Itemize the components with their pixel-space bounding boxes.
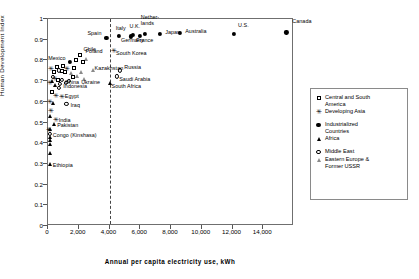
legend-label: Developing Asia [325,108,365,115]
data-point [48,142,52,146]
x-tick-label: 2,000 [70,228,85,235]
plot-area: ✳✳✳✳✳✳✳✳✳✳✳ CanadaU.S.AustraliaJapanNeth… [47,18,293,225]
legend-marker-icon [315,135,322,142]
data-point [52,70,56,74]
legend-item[interactable]: ✳Developing Asia [315,108,403,115]
data-point [284,30,288,34]
point-label: Congo (Kinshasa) [53,132,97,138]
point-label: Canada [292,18,311,24]
legend-label: Industrialized Countries [325,121,358,134]
data-point [56,78,60,82]
legend-marker-icon [315,156,322,163]
x-tick-label: 6,000 [132,228,147,235]
data-point [69,71,73,75]
y-tick-label: 0.7 [17,77,43,84]
point-label: Russia [124,64,141,70]
x-axis-label: Annual per capita electricity use, kWh [47,258,293,265]
legend-label: Central and South America [325,94,370,107]
x-tick-label: 12,000 [222,228,241,235]
legend-item[interactable]: Central and South America [315,94,403,107]
point-label: Japan [165,29,180,35]
x-tick-mark [201,225,202,229]
legend-item[interactable]: Eastern Europe & Former USSR [315,156,403,169]
data-point [68,60,72,64]
data-point [52,122,56,126]
data-point [48,162,52,166]
y-tick-label: 0.6 [17,97,43,104]
y-tick-label: 1 [17,15,43,22]
data-point [61,64,65,68]
data-point [78,53,82,57]
data-point [232,32,236,36]
data-point [104,36,108,40]
point-label: Iraq [70,102,80,108]
x-tick-mark [47,225,48,229]
x-tick-mark [78,225,79,229]
x-tick-label: 10,000 [191,228,210,235]
data-point [48,151,52,155]
point-label: Kazakhstan [95,65,124,71]
legend-marker-icon [315,94,322,101]
data-point [57,86,61,90]
x-tick-label: 0 [45,228,48,235]
x-tick-mark [170,225,171,229]
legend-marker-icon [315,148,322,155]
point-label: South Africa [112,83,142,89]
data-point: ✳ [48,109,54,113]
chart-container: Human Development Index Annual per capit… [0,0,419,279]
point-label: Ethiopia [53,162,73,168]
legend-label: Middle East [325,148,354,155]
x-tick-mark [109,225,110,229]
point-label: Spain [87,30,101,36]
data-point [74,58,78,62]
data-point [84,57,88,61]
data-point [72,66,76,70]
y-tick-label: 0.4 [17,139,43,146]
point-label: Pakistan [57,122,78,128]
point-label: Germany [121,37,144,43]
point-label: Poland [85,48,102,54]
point-label: Mexico [48,55,65,61]
point-label: U.K. [130,23,141,29]
point-label: Egypt [65,93,79,99]
y-tick-label: 0 [17,222,43,229]
y-tick-label: 0.8 [17,56,43,63]
x-tick-mark [262,225,263,229]
x-tick-label: 4,000 [101,228,116,235]
legend: Central and South America✳Developing Asi… [310,88,408,200]
data-point [64,102,68,106]
x-tick-label: 8,000 [162,228,177,235]
y-tick-label: 0.2 [17,180,43,187]
point-label: Indonesia [63,83,87,89]
data-point [75,74,79,78]
legend-item[interactable]: Middle East [315,148,403,155]
y-axis-label: Human Development Index [0,15,5,96]
legend-marker-icon [315,121,322,128]
legend-marker-icon: ✳ [315,108,322,115]
legend-label: Africa [325,135,339,142]
legend-item[interactable]: Industrialized Countries [315,121,403,134]
point-label: South Korea [116,50,147,56]
point-label: U.S. [238,22,249,28]
y-tick-label: 0.3 [17,159,43,166]
point-label: Saudi Arabia [119,76,150,82]
legend-item[interactable]: Africa [315,135,403,142]
x-tick-mark [232,225,233,229]
data-point [79,70,83,74]
data-point: ✳ [53,94,59,98]
point-label: Nether- lands [141,14,159,26]
x-tick-label: 14,000 [253,228,272,235]
legend-label: Eastern Europe & Former USSR [325,156,369,169]
data-point [143,32,147,36]
data-point [48,114,52,118]
point-label: Australia [185,28,206,34]
data-point: ✳ [46,128,52,132]
data-point [51,101,55,105]
point-label: Italy [116,25,126,31]
y-tick-label: 0.9 [17,35,43,42]
x-tick-mark [139,225,140,229]
y-tick-label: 0.1 [17,201,43,208]
y-tick-label: 0.5 [17,118,43,125]
data-point [81,60,85,64]
data-point [158,32,162,36]
